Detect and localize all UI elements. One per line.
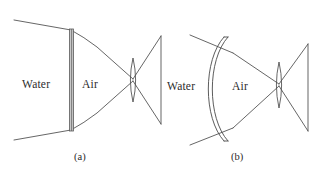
ray-a-lower-water: [14, 130, 71, 140]
panel-b-air-label: Air: [232, 80, 248, 92]
ray-a-upper-water: [14, 20, 71, 30]
ray-b-lower-air: [233, 86, 279, 128]
dome-port-outer-arc-b: [208, 37, 224, 141]
ray-b-lower-after-lens: [279, 86, 308, 131]
ray-a-upper-air: [71, 30, 133, 79]
lens-a: [130, 58, 135, 102]
optics-figure: Water Air (a) Water Air (b): [0, 0, 326, 174]
ray-b-upper-after-lens: [279, 44, 308, 84]
panel-b-drawing: [190, 35, 308, 145]
lens-b: [276, 62, 281, 108]
ray-b-lower-water: [190, 128, 233, 145]
ray-a-lower-after-lens: [133, 81, 161, 124]
panel-a-air-label: Air: [82, 78, 98, 90]
panel-b-water-label: Water: [167, 80, 195, 92]
panel-b-caption: (b): [231, 151, 243, 162]
ray-a-upper-after-lens: [133, 36, 161, 79]
panel-a-water-label: Water: [22, 78, 50, 90]
ray-b-upper-water: [190, 35, 233, 53]
ray-a-lower-air: [71, 81, 133, 130]
panel-a-caption: (a): [74, 151, 86, 162]
